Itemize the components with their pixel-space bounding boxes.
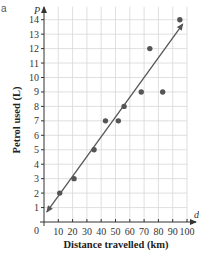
data-point (147, 46, 152, 51)
y-tick-label: 4 (34, 159, 39, 170)
data-point (103, 118, 108, 123)
x-axis-title: Distance travelled (km) (64, 239, 169, 251)
data-point (71, 176, 76, 181)
data-point (57, 190, 62, 195)
line-of-best-fit-group (47, 24, 183, 212)
origin-label: 0 (34, 225, 39, 236)
y-tick-label: 6 (34, 130, 39, 141)
data-point (160, 89, 165, 94)
y-tick-label: 12 (29, 43, 39, 54)
y-axis-letter: P (33, 5, 40, 16)
y-tick-label: 10 (29, 72, 39, 83)
x-axis-letter: d (194, 209, 199, 220)
y-tick-label: 1 (34, 202, 39, 213)
data-point (177, 17, 182, 22)
grid (44, 7, 187, 222)
y-tick-label: 11 (29, 58, 39, 69)
scatter-chart: a 10203040506070809010012345678910111213… (0, 0, 199, 254)
x-tick-label: 30 (82, 226, 92, 237)
data-point (91, 147, 96, 152)
line-of-best-fit (47, 24, 183, 212)
panel-label: a (1, 3, 7, 14)
x-tick-label: 90 (168, 226, 178, 237)
y-tick-label: 2 (34, 188, 39, 199)
y-tick-label: 13 (29, 29, 39, 40)
x-tick-label: 40 (96, 226, 106, 237)
ticks: 1020304050607080901001234567891011121314 (29, 14, 195, 237)
x-tick-label: 50 (111, 226, 121, 237)
data-point (139, 89, 144, 94)
x-tick-label: 80 (153, 226, 163, 237)
x-tick-label: 70 (139, 226, 149, 237)
y-axis-title: Petrol used (L) (11, 86, 23, 153)
y-tick-label: 7 (34, 115, 39, 126)
x-tick-label: 10 (53, 226, 63, 237)
y-tick-label: 5 (34, 144, 39, 155)
y-tick-label: 9 (34, 86, 39, 97)
x-tick-label: 100 (180, 226, 195, 237)
data-point (121, 104, 126, 109)
x-tick-label: 20 (68, 226, 78, 237)
y-tick-label: 8 (34, 101, 39, 112)
y-tick-label: 3 (34, 173, 39, 184)
x-tick-label: 60 (125, 226, 135, 237)
data-point (116, 118, 121, 123)
